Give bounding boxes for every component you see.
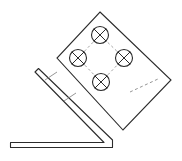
technical-drawing-canvas bbox=[0, 0, 182, 161]
technical-drawing bbox=[0, 0, 182, 161]
hole-left bbox=[70, 50, 87, 67]
hole-bottom bbox=[93, 74, 110, 91]
hole-right bbox=[116, 50, 133, 67]
hole-top bbox=[92, 27, 109, 44]
